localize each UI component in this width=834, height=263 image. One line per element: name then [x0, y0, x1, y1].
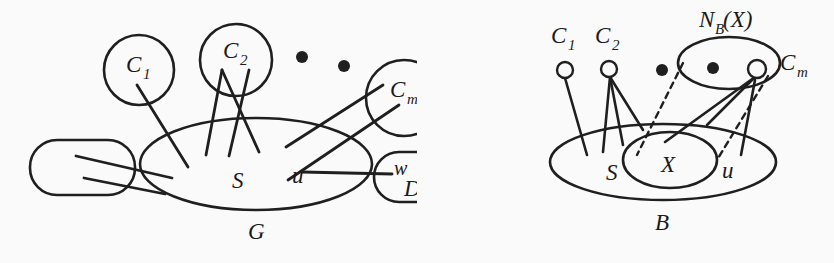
edge-u-w [302, 172, 392, 174]
label-s-g: S [232, 168, 244, 193]
label-c2-right-sub: 2 [612, 37, 620, 53]
g-ellipse [140, 118, 372, 210]
dashed-edge-1 [637, 63, 683, 155]
edge-c1b-b [565, 78, 587, 155]
label-c1-right-sub: 1 [568, 37, 576, 53]
label-u-g: u [292, 163, 304, 188]
edge-cm-g-1 [286, 85, 383, 147]
label-d: D [403, 176, 417, 201]
label-c1: C [126, 52, 142, 77]
label-x-b: X [660, 152, 676, 177]
label-b-caption: B [655, 210, 669, 235]
label-nbx-base: N [698, 7, 716, 32]
label-c2: C [223, 38, 239, 63]
edge-cm-g-2 [288, 105, 399, 180]
right-diagram-svg: C 1 C 2 C m N B (X) S X u B [417, 0, 834, 263]
label-cm-right: C [780, 50, 796, 75]
label-cm-right-sub: m [797, 64, 808, 80]
ellipsis-dot-2 [338, 60, 350, 72]
label-c1-sub: 1 [143, 66, 151, 82]
ellipsis-dot-right-1 [656, 64, 668, 76]
edge-blob-g-1 [76, 156, 172, 178]
left-blob-rounded-rect [30, 140, 135, 195]
vertex-c1 [557, 62, 573, 78]
label-c2-right: C [595, 23, 611, 48]
label-u-b: u [722, 158, 734, 183]
ellipsis-dot-1 [296, 51, 308, 63]
label-c2-sub: 2 [240, 52, 248, 68]
nbx-inner-dot [707, 62, 719, 74]
label-g-caption: G [248, 219, 265, 244]
edge-c2b-b-1 [603, 77, 610, 152]
vertex-cm [748, 60, 766, 78]
label-nbx-arg: (X) [723, 7, 752, 32]
label-cm-sub: m [407, 91, 417, 107]
figure-container: C 1 C 2 C m S u w D v G [0, 0, 834, 263]
label-cm: C [390, 77, 406, 102]
edge-c2-g-3 [229, 70, 249, 156]
left-diagram-svg: C 1 C 2 C m S u w D v G [0, 0, 417, 263]
label-c1-right: C [551, 23, 567, 48]
vertex-c2 [601, 61, 617, 77]
label-s-b: S [606, 160, 618, 185]
